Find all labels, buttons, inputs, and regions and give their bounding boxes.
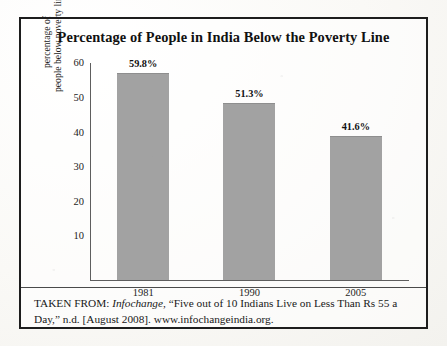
bar-group-1981: 59.8%1981 [90,63,196,280]
y-axis-title-line-2: people below poverty line [52,0,63,117]
y-axis-tick-40: 40 [74,126,85,137]
bar-2005[interactable] [330,136,382,280]
bar-group-1990: 51.3%1990 [196,63,302,280]
bar-1981[interactable] [117,73,169,280]
y-axis-tick-60: 60 [74,57,85,68]
source-prefix: TAKEN FROM: [34,297,109,309]
bar-value-1981: 59.8% [129,58,157,69]
y-axis-tick-30: 30 [74,161,85,172]
y-axis-title: percentage of people below poverty line [41,0,64,117]
y-axis-tick-20: 20 [74,195,85,206]
source-attribution: TAKEN FROM: Infochange, “Five out of 10 … [34,295,414,327]
chart-title: Percentage of People in India Below the … [21,29,426,46]
bar-1990[interactable] [223,103,275,281]
y-axis-tick-50: 50 [74,91,85,102]
bar-group-2005: 41.6%2005 [303,63,409,280]
y-axis-title-line-1: percentage of [41,0,52,117]
scanned-page-background: Percentage of People in India Below the … [0,0,447,346]
source-divider [21,287,426,288]
source-publication: Infochange [112,297,163,309]
plot-area: 102030405060 59.8%198151.3%199041.6%2005 [90,63,409,281]
x-axis-line [90,280,409,281]
bar-value-2005: 41.6% [342,121,370,132]
figure-frame: Percentage of People in India Below the … [19,17,428,329]
bar-value-1990: 51.3% [235,88,263,99]
y-axis-tick-10: 10 [74,230,85,241]
